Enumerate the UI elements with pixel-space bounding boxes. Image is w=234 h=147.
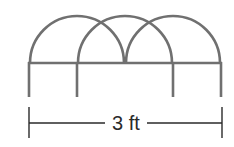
fence-diagram: 3 ft <box>0 0 234 147</box>
fence-arc-3 <box>126 16 220 63</box>
fence-arc-2 <box>78 16 172 63</box>
dimension-label: 3 ft <box>112 112 140 134</box>
fence-structure <box>28 16 222 97</box>
fence-arc-1 <box>30 16 124 63</box>
